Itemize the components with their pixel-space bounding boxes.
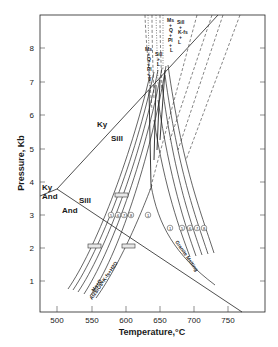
svg-text:V: V bbox=[148, 76, 152, 82]
y-axis bbox=[40, 48, 265, 281]
label-fluid-absent-reaction: Ms + Q + Pl + L Sill + K-fs + L bbox=[167, 17, 188, 53]
label-and-main: And bbox=[62, 206, 78, 215]
label-ky-lower: Ky bbox=[42, 183, 53, 192]
svg-text:7: 7 bbox=[30, 78, 35, 87]
svg-text:5: 5 bbox=[30, 145, 35, 154]
plot-frame bbox=[40, 15, 265, 312]
aluminosilicate-boundaries bbox=[40, 15, 242, 312]
x-axis bbox=[57, 306, 228, 312]
svg-text:L: L bbox=[157, 61, 160, 67]
y-tick-labels: 1 2 3 4 5 6 7 8 bbox=[30, 44, 35, 286]
svg-text:4: 4 bbox=[30, 178, 35, 187]
svg-text:500: 500 bbox=[50, 316, 64, 325]
x-tick-labels: 500 550 600 650 700 750 bbox=[50, 316, 235, 325]
label-ky-upper: Ky bbox=[97, 120, 108, 129]
svg-text:1: 1 bbox=[30, 277, 35, 286]
svg-text:3: 3 bbox=[30, 211, 35, 220]
svg-text:600: 600 bbox=[119, 316, 133, 325]
label-sill-upper: Sill bbox=[111, 134, 123, 143]
svg-text:650: 650 bbox=[153, 316, 167, 325]
label-and-lower: And bbox=[42, 192, 58, 201]
svg-text:L: L bbox=[178, 39, 181, 45]
and-sill-line bbox=[57, 189, 242, 312]
svg-text:2: 2 bbox=[30, 244, 35, 253]
svg-text:6: 6 bbox=[30, 111, 35, 120]
svg-text:700: 700 bbox=[187, 316, 201, 325]
svg-text:L: L bbox=[170, 47, 173, 53]
x-axis-label: Temperature,°C bbox=[119, 327, 186, 337]
svg-text:550: 550 bbox=[85, 316, 99, 325]
y-axis-label: Pressure, Kb bbox=[16, 135, 26, 191]
svg-text:8: 8 bbox=[30, 44, 35, 53]
phase-diagram: 1 2 3 4 5 6 7 8 Pressure, Kb 500 550 600… bbox=[0, 0, 278, 347]
svg-text:750: 750 bbox=[221, 316, 235, 325]
label-sill-lower: Sill bbox=[79, 196, 91, 205]
